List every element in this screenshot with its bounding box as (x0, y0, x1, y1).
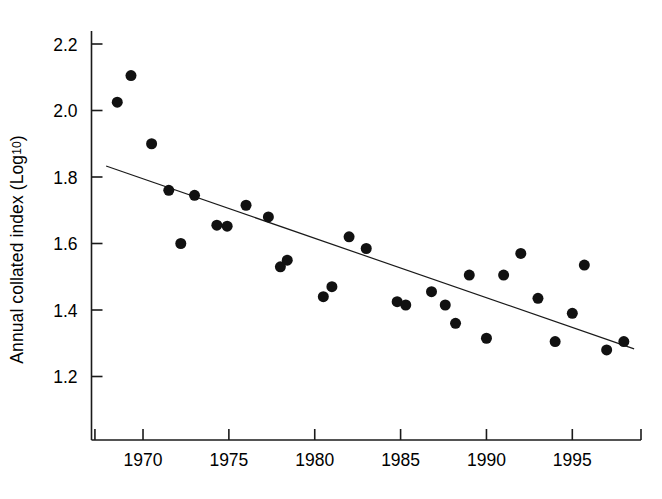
data-point (440, 300, 451, 311)
axes-group (92, 31, 642, 440)
data-point (550, 336, 561, 347)
data-point (618, 336, 629, 347)
data-point (426, 286, 437, 297)
x-axis-tick-label: 1975 (209, 450, 248, 470)
x-axis-tick-label: 1990 (467, 450, 506, 470)
data-point (241, 200, 252, 211)
y-axis-tick-label: 1.4 (53, 301, 78, 321)
data-point (146, 138, 157, 149)
data-point (222, 221, 233, 232)
data-point (163, 185, 174, 196)
data-point (579, 260, 590, 271)
regression-line (106, 166, 634, 349)
data-point (282, 255, 293, 266)
figure-container: Annual collated index (Log10) 1.21.41.61… (0, 0, 662, 499)
data-point (532, 293, 543, 304)
data-point (112, 97, 123, 108)
y-axis-tick-label: 1.8 (53, 168, 77, 188)
data-point (263, 211, 274, 222)
data-point (361, 243, 372, 254)
data-points-group (112, 70, 630, 355)
data-point (481, 333, 492, 344)
y-axis-tick-label: 2.2 (53, 35, 77, 55)
data-point (400, 300, 411, 311)
data-point (344, 231, 355, 242)
data-point (498, 270, 509, 281)
data-point (515, 248, 526, 259)
data-point (211, 220, 222, 231)
data-point (175, 238, 186, 249)
y-axis-tick-label: 1.2 (53, 367, 77, 387)
tick-labels-group: 1.21.41.61.82.02.21970197519801985199019… (53, 35, 592, 471)
y-axis-tick-label: 2.0 (53, 101, 78, 121)
x-axis-tick-label: 1985 (381, 450, 420, 470)
x-axis-tick-label: 1995 (553, 450, 592, 470)
data-point (450, 318, 461, 329)
data-point (567, 308, 578, 319)
data-point (601, 344, 612, 355)
data-point (125, 70, 136, 81)
x-axis-tick-label: 1980 (295, 450, 334, 470)
trendline-group (106, 166, 634, 349)
x-axis-tick-label: 1970 (124, 450, 163, 470)
data-point (189, 190, 200, 201)
data-point (464, 270, 475, 281)
scatter-plot: 1.21.41.61.82.02.21970197519801985199019… (0, 0, 662, 499)
data-point (318, 291, 329, 302)
data-point (326, 281, 337, 292)
y-axis-tick-label: 1.6 (53, 234, 77, 254)
